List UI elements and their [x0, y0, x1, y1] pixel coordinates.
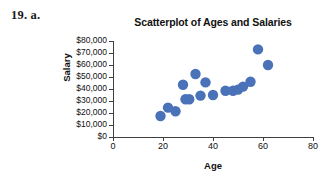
plot-area	[0, 0, 331, 176]
scatter-point	[245, 77, 255, 87]
scatter-point	[178, 80, 188, 90]
scatter-point	[200, 77, 210, 87]
scatter-point	[253, 44, 263, 54]
scatter-point	[170, 106, 180, 116]
scatter-point	[208, 90, 218, 100]
scatter-point	[190, 69, 200, 79]
scatter-point	[195, 90, 205, 100]
scatter-point	[155, 111, 165, 121]
figure-page: 19. a. Scatterplot of Ages and Salaries …	[0, 0, 331, 176]
data-points-group	[155, 44, 273, 121]
scatter-point	[263, 60, 273, 70]
scatter-point	[184, 94, 194, 104]
scatterplot-figure: Scatterplot of Ages and Salaries Salary …	[0, 0, 331, 176]
